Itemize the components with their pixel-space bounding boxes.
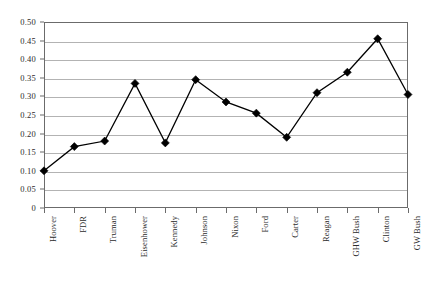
y-tick-label: 0.25	[20, 110, 36, 120]
x-tick-label: GW Bush	[412, 216, 422, 250]
x-tick-label: Reagan	[321, 216, 331, 242]
y-tick-label: 0.10	[20, 166, 36, 176]
x-tick-label: GHW Bush	[351, 216, 361, 257]
x-tick-mark	[408, 208, 409, 213]
x-tick-mark	[226, 208, 227, 213]
y-tick-mark	[40, 96, 44, 97]
y-tick-mark	[40, 133, 44, 134]
x-tick-mark	[378, 208, 379, 213]
x-tick-label: Nixon	[230, 216, 240, 238]
y-tick-label: 0.45	[20, 36, 36, 46]
x-tick-mark	[74, 208, 75, 213]
y-tick-mark	[40, 170, 44, 171]
y-tick-label: 0.35	[20, 73, 36, 83]
y-tick-mark	[40, 115, 44, 116]
x-tick-label: FDR	[78, 216, 88, 233]
x-tick-mark	[44, 208, 45, 213]
x-tick-mark	[317, 208, 318, 213]
y-axis: 00.050.100.150.200.250.300.350.400.450.5…	[0, 0, 44, 285]
x-tick-label: Ford	[260, 216, 270, 232]
y-tick-label: 0.05	[20, 184, 36, 194]
x-tick-label: Clinton	[381, 216, 391, 242]
y-tick-label: 0.30	[20, 91, 36, 101]
y-tick-label: 0.50	[20, 17, 36, 27]
y-tick-label: 0.40	[20, 54, 36, 64]
y-tick-mark	[40, 189, 44, 190]
x-tick-label: Eisenhower	[139, 216, 149, 257]
y-tick-mark	[40, 152, 44, 153]
x-tick-mark	[135, 208, 136, 213]
x-tick-label: Carter	[290, 216, 300, 238]
x-tick-mark	[105, 208, 106, 213]
x-tick-mark	[196, 208, 197, 213]
y-tick-mark	[40, 22, 44, 23]
y-tick-label: 0.15	[20, 147, 36, 157]
gridline	[45, 60, 407, 61]
gridline	[45, 79, 407, 80]
y-tick-mark	[40, 59, 44, 60]
gridline	[45, 42, 407, 43]
line-chart: 00.050.100.150.200.250.300.350.400.450.5…	[0, 0, 430, 285]
gridline	[45, 97, 407, 98]
plot-area	[44, 22, 408, 208]
x-tick-label: Hoover	[48, 216, 58, 242]
x-tick-mark	[256, 208, 257, 213]
x-tick-label: Kennedy	[169, 216, 179, 247]
x-tick-mark	[347, 208, 348, 213]
gridline	[45, 153, 407, 154]
gridline	[45, 190, 407, 191]
x-tick-mark	[287, 208, 288, 213]
x-tick-label: Johnson	[199, 216, 209, 245]
x-tick-mark	[165, 208, 166, 213]
x-tick-label: Truman	[108, 216, 118, 243]
gridline	[45, 172, 407, 173]
gridline	[45, 135, 407, 136]
y-tick-label: 0.20	[20, 129, 36, 139]
y-tick-mark	[40, 77, 44, 78]
y-tick-mark	[40, 40, 44, 41]
gridline	[45, 116, 407, 117]
y-tick-label: 0	[32, 203, 36, 213]
